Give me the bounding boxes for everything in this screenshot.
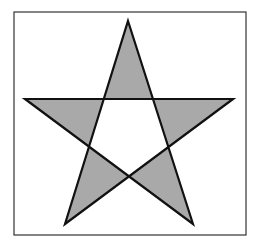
star-shape [25,21,233,224]
pentagram-figure [0,0,262,249]
